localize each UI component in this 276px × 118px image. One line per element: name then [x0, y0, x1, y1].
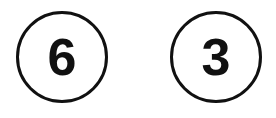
badge-number: 6: [48, 31, 77, 83]
number-badge-3: 3: [170, 11, 262, 103]
number-badge-6: 6: [16, 11, 108, 103]
badge-number: 3: [202, 31, 231, 83]
